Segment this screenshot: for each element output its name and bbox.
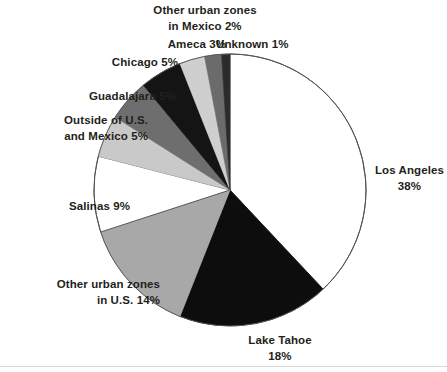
label-line-2: in Mexico 2%: [115, 18, 295, 34]
label-line-1: Other urban zones: [0, 276, 160, 292]
label-line-1: Los Angeles: [372, 162, 447, 178]
label-line-1: Unknown 1%: [216, 36, 356, 52]
label-line-2: 18%: [212, 348, 348, 364]
bottom-divider: [0, 366, 447, 367]
pie-chart-page: Other urban zones in Mexico 2% Ameca 3% …: [0, 0, 447, 372]
slice-label-guadalajara: Guadalajara 5%: [10, 88, 176, 104]
slice-label-los-angeles: Los Angeles 38%: [372, 162, 447, 195]
slice-label-other-urban-zones-us: Other urban zones in U.S. 14%: [0, 276, 160, 309]
label-line-1: Outside of U.S.: [4, 112, 148, 128]
pie-chart-figure: Other urban zones in Mexico 2% Ameca 3% …: [0, 0, 447, 372]
label-line-1: Other urban zones: [115, 2, 295, 18]
slice-label-other-urban-zones-mexico: Other urban zones in Mexico 2%: [115, 2, 295, 35]
label-line-1: Salinas 9%: [4, 198, 130, 214]
slice-label-unknown: Unknown 1%: [216, 36, 356, 52]
slice-label-chicago: Chicago 5%: [48, 54, 178, 70]
label-line-2: and Mexico 5%: [4, 128, 148, 144]
slice-label-lake-tahoe: Lake Tahoe 18%: [212, 332, 348, 365]
label-line-2: 38%: [372, 178, 447, 194]
label-line-1: Ameca 3%: [96, 36, 226, 52]
label-line-2: in U.S. 14%: [0, 292, 160, 308]
slice-label-ameca: Ameca 3%: [96, 36, 226, 52]
slice-label-outside-of-us-and-mexico: Outside of U.S. and Mexico 5%: [4, 112, 148, 145]
slice-label-salinas: Salinas 9%: [4, 198, 130, 214]
label-line-1: Guadalajara 5%: [10, 88, 176, 104]
label-line-1: Chicago 5%: [48, 54, 178, 70]
label-line-1: Lake Tahoe: [212, 332, 348, 348]
